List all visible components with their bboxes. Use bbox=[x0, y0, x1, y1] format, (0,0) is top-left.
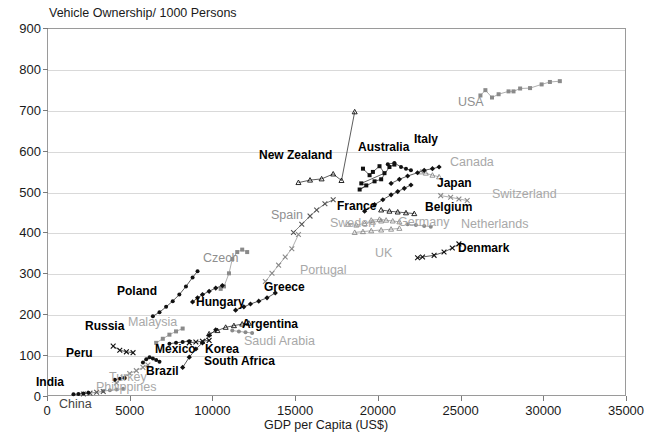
country-label-russia: Russia bbox=[85, 320, 124, 332]
country-label-poland: Poland bbox=[117, 285, 157, 297]
x-tick-mark bbox=[130, 396, 131, 401]
x-tick-label: 0 bbox=[43, 403, 50, 418]
country-label-spain: Spain bbox=[271, 209, 303, 222]
country-label-philippines: Philippines bbox=[96, 381, 156, 394]
country-label-belgium: Belgium bbox=[425, 201, 472, 213]
x-tick-mark bbox=[543, 396, 544, 401]
x-tick-label: 35000 bbox=[608, 403, 644, 418]
country-label-malaysia: Malaysia bbox=[128, 316, 177, 329]
country-label-sweden: Sweden bbox=[330, 217, 375, 230]
country-label-mexico: Mexico bbox=[155, 343, 196, 355]
country-label-switzerland: Switzerland bbox=[492, 188, 557, 201]
x-tick-mark bbox=[461, 396, 462, 401]
country-label-japan: Japan bbox=[437, 177, 472, 189]
x-tick-mark bbox=[47, 396, 48, 401]
country-label-peru: Peru bbox=[66, 347, 93, 359]
country-label-uk: UK bbox=[375, 247, 392, 260]
country-label-australia: Australia bbox=[358, 141, 409, 153]
country-label-usa: USA bbox=[458, 96, 484, 109]
x-tick-label: 5000 bbox=[115, 403, 144, 418]
country-label-new-zealand: New Zealand bbox=[259, 149, 332, 161]
country-label-denmark: Denmark bbox=[458, 242, 509, 254]
x-tick-mark bbox=[626, 396, 627, 401]
country-label-saudi-arabia: Saudi Arabia bbox=[244, 335, 315, 348]
country-label-portugal: Portugal bbox=[300, 264, 347, 277]
country-label-netherlands: Netherlands bbox=[461, 218, 528, 231]
chart-root: Vehicle Ownership/ 1000 Persons 01002003… bbox=[0, 0, 652, 438]
country-label-brazil: Brazil bbox=[146, 365, 179, 377]
x-tick-mark bbox=[212, 396, 213, 401]
x-tick-label: 15000 bbox=[277, 403, 313, 418]
country-label-italy: Italy bbox=[414, 133, 438, 145]
x-tick-label: 30000 bbox=[525, 403, 561, 418]
country-label-south-africa: South Africa bbox=[204, 355, 275, 367]
country-label-canada: Canada bbox=[450, 156, 494, 169]
x-tick-label: 10000 bbox=[194, 403, 230, 418]
x-tick-mark bbox=[295, 396, 296, 401]
x-tick-label: 25000 bbox=[442, 403, 478, 418]
country-label-france: France bbox=[337, 200, 376, 212]
x-tick-label: 20000 bbox=[360, 403, 396, 418]
country-label-czech: Czech bbox=[203, 252, 238, 265]
country-label-india: India bbox=[36, 376, 64, 388]
x-axis: 05000100001500020000250003000035000 bbox=[0, 0, 652, 438]
x-axis-title: GDP per Capita (US$) bbox=[0, 418, 652, 432]
country-label-hungary: Hungary bbox=[196, 296, 245, 308]
country-label-argentina: Argentina bbox=[242, 318, 298, 330]
country-label-germany: Germany bbox=[398, 216, 449, 229]
country-label-greece: Greece bbox=[264, 281, 305, 293]
x-tick-mark bbox=[378, 396, 379, 401]
country-label-china: China bbox=[59, 398, 92, 411]
